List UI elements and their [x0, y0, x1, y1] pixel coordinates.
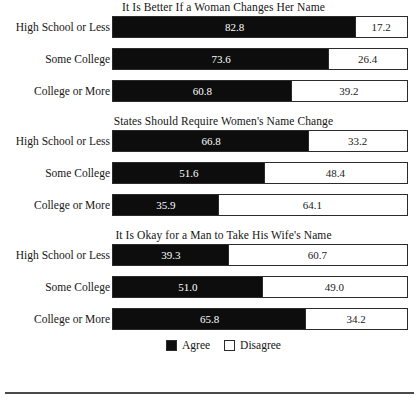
panel-rows: High School or Less 66.8 33.2 Some Colle… — [0, 130, 419, 216]
chart-row: High School or Less 39.3 60.7 — [0, 244, 419, 266]
bar-segment-disagree: 34.2 — [305, 309, 406, 329]
stacked-bar-track: 51.6 48.4 — [112, 162, 408, 184]
category-label: High School or Less — [0, 135, 112, 148]
bar-segment-disagree: 39.2 — [291, 81, 406, 101]
panel-rows: High School or Less 39.3 60.7 Some Colle… — [0, 244, 419, 330]
bar-segment-agree: 65.8 — [113, 309, 306, 329]
bar-value-agree: 66.8 — [202, 136, 221, 147]
bar-segment-agree: 82.8 — [113, 17, 356, 37]
panel-gap — [0, 102, 419, 114]
bar-segment-disagree: 49.0 — [262, 277, 406, 297]
bar-segment-agree: 39.3 — [113, 245, 229, 265]
stacked-bar-track: 66.8 33.2 — [112, 130, 408, 152]
category-label: College or More — [0, 313, 112, 326]
bar-segment-agree: 51.6 — [113, 163, 265, 183]
bar-segment-disagree: 33.2 — [308, 131, 406, 151]
legend-swatch-filled-icon — [166, 340, 177, 351]
bar-value-agree: 35.9 — [156, 200, 175, 211]
category-label: Some College — [0, 53, 112, 66]
bar-value-agree: 60.8 — [193, 86, 212, 97]
stacked-bar-chart-figure: It Is Better If a Woman Changes Her Name… — [0, 0, 419, 404]
legend-item-agree: Agree — [166, 339, 210, 351]
chart-row: High School or Less 66.8 33.2 — [0, 130, 419, 152]
legend-item-disagree: Disagree — [224, 339, 281, 351]
category-label: College or More — [0, 85, 112, 98]
category-label: High School or Less — [0, 249, 112, 262]
bar-value-disagree: 39.2 — [339, 86, 358, 97]
stacked-bar-track: 51.0 49.0 — [112, 276, 408, 298]
chart-row: Some College 51.0 49.0 — [0, 276, 419, 298]
stacked-bar-track: 39.3 60.7 — [112, 244, 408, 266]
legend-swatch-open-icon — [224, 340, 235, 351]
category-label: High School or Less — [0, 21, 112, 34]
stacked-bar-track: 82.8 17.2 — [112, 16, 408, 38]
panel-title: It Is Better If a Woman Changes Her Name — [0, 0, 419, 16]
bar-segment-disagree: 48.4 — [264, 163, 406, 183]
bar-value-disagree: 17.2 — [372, 22, 391, 33]
chart-row: College or More 60.8 39.2 — [0, 80, 419, 102]
bar-value-disagree: 34.2 — [347, 314, 366, 325]
chart-legend: Agree Disagree — [0, 338, 419, 352]
bar-value-disagree: 64.1 — [303, 200, 322, 211]
bar-segment-agree: 51.0 — [113, 277, 263, 297]
bar-value-disagree: 60.7 — [308, 250, 327, 261]
chart-panel: It Is Better If a Woman Changes Her Name… — [0, 0, 419, 102]
bar-segment-disagree: 64.1 — [218, 195, 406, 215]
chart-row: High School or Less 82.8 17.2 — [0, 16, 419, 38]
bar-value-disagree: 33.2 — [348, 136, 367, 147]
bar-value-agree: 82.8 — [225, 22, 244, 33]
stacked-bar-track: 73.6 26.4 — [112, 48, 408, 70]
panel-title: It Is Okay for a Man to Take His Wife's … — [0, 228, 419, 244]
panel-rows: High School or Less 82.8 17.2 Some Colle… — [0, 16, 419, 102]
bar-value-agree: 51.0 — [178, 282, 197, 293]
bar-value-agree: 51.6 — [179, 168, 198, 179]
bar-segment-agree: 66.8 — [113, 131, 309, 151]
category-label: Some College — [0, 281, 112, 294]
chart-panel: States Should Require Women's Name Chang… — [0, 114, 419, 216]
stacked-bar-track: 60.8 39.2 — [112, 80, 408, 102]
chart-panel: It Is Okay for a Man to Take His Wife's … — [0, 228, 419, 330]
bar-segment-agree: 73.6 — [113, 49, 329, 69]
bar-segment-disagree: 17.2 — [355, 17, 406, 37]
bar-value-disagree: 49.0 — [325, 282, 344, 293]
bar-value-disagree: 48.4 — [326, 168, 345, 179]
bar-segment-disagree: 26.4 — [328, 49, 406, 69]
category-label: Some College — [0, 167, 112, 180]
panel-title: States Should Require Women's Name Chang… — [0, 114, 419, 130]
chart-row: College or More 35.9 64.1 — [0, 194, 419, 216]
bar-value-agree: 39.3 — [161, 250, 180, 261]
legend-label-disagree: Disagree — [240, 339, 281, 351]
bar-segment-agree: 60.8 — [113, 81, 292, 101]
chart-row: Some College 51.6 48.4 — [0, 162, 419, 184]
legend-label-agree: Agree — [182, 339, 210, 351]
chart-row: College or More 65.8 34.2 — [0, 308, 419, 330]
stacked-bar-track: 35.9 64.1 — [112, 194, 408, 216]
bar-value-disagree: 26.4 — [358, 54, 377, 65]
panel-gap — [0, 216, 419, 228]
bottom-divider — [5, 392, 414, 394]
bar-segment-disagree: 60.7 — [228, 245, 406, 265]
stacked-bar-track: 65.8 34.2 — [112, 308, 408, 330]
bar-segment-agree: 35.9 — [113, 195, 219, 215]
bar-value-agree: 65.8 — [200, 314, 219, 325]
category-label: College or More — [0, 199, 112, 212]
bar-value-agree: 73.6 — [212, 54, 231, 65]
chart-row: Some College 73.6 26.4 — [0, 48, 419, 70]
